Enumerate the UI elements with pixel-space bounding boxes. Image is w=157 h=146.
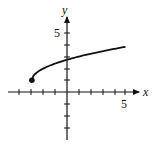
y-tick-label-5: 5 (54, 26, 60, 40)
y-axis-label: y (61, 3, 68, 17)
x-axis-label: x (142, 85, 149, 99)
endpoint-dot (29, 77, 35, 83)
graph: x y 5 5 (0, 0, 157, 146)
x-tick-label-5: 5 (121, 97, 127, 111)
curve-line (32, 47, 126, 80)
